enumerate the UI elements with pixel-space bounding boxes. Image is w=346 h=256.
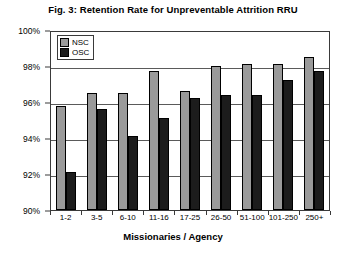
bar-nsc-101-250 xyxy=(273,64,283,210)
x-tick-label: 26-50 xyxy=(206,213,237,229)
bar-group xyxy=(267,32,298,210)
x-tick-mark xyxy=(330,211,331,215)
y-axis: 100%98%96%94%92%90% xyxy=(0,31,46,211)
bar-osc-250+ xyxy=(314,71,324,210)
y-tick-label: 92% xyxy=(23,170,40,180)
bar-osc-11-16 xyxy=(159,118,169,210)
bar-nsc-6-10 xyxy=(118,93,128,210)
figure-retention-rate: Fig. 3: Retention Rate for Unpreventable… xyxy=(0,0,346,256)
x-tick-label: 250+ xyxy=(299,213,330,229)
bar-group xyxy=(236,32,267,210)
x-tick-label: 1-2 xyxy=(50,213,81,229)
bar-nsc-250+ xyxy=(304,57,314,210)
bar-group xyxy=(113,32,144,210)
x-tick-label: 17-25 xyxy=(174,213,205,229)
bar-osc-17-25 xyxy=(190,98,200,210)
bar-osc-26-50 xyxy=(221,95,231,210)
bar-osc-3-5 xyxy=(97,109,107,210)
bar-group xyxy=(298,32,329,210)
y-tick-label: 100% xyxy=(18,26,40,36)
bar-osc-51-100 xyxy=(252,95,262,210)
x-axis-title: Missionaries / Agency xyxy=(0,231,346,242)
bar-nsc-26-50 xyxy=(211,66,221,210)
bar-osc-6-10 xyxy=(128,136,138,210)
legend-swatch-icon xyxy=(60,38,69,47)
legend-item-osc: OSC xyxy=(60,48,89,57)
y-tick-label: 98% xyxy=(23,62,40,72)
chart-title: Fig. 3: Retention Rate for Unpreventable… xyxy=(0,4,346,15)
bar-nsc-3-5 xyxy=(87,93,97,210)
bar-nsc-1-2 xyxy=(56,106,66,210)
bar-group xyxy=(175,32,206,210)
bar-group xyxy=(144,32,175,210)
legend-swatch-icon xyxy=(60,48,69,57)
y-tick-label: 94% xyxy=(23,134,40,144)
x-tick-label: 6-10 xyxy=(112,213,143,229)
x-tick-label: 11-16 xyxy=(143,213,174,229)
bar-osc-101-250 xyxy=(283,80,293,210)
bar-group xyxy=(205,32,236,210)
x-tick-label: 3-5 xyxy=(81,213,112,229)
bar-nsc-11-16 xyxy=(149,71,159,210)
legend: NSCOSC xyxy=(57,35,94,60)
y-tick-label: 90% xyxy=(23,206,40,216)
bar-nsc-51-100 xyxy=(242,64,252,210)
legend-label: NSC xyxy=(72,39,89,47)
legend-item-nsc: NSC xyxy=(60,38,89,47)
x-axis-tick-labels: 1-23-56-1011-1617-2526-5051-100101-25025… xyxy=(50,213,330,229)
y-tick-label: 96% xyxy=(23,98,40,108)
x-tick-label: 51-100 xyxy=(237,213,268,229)
legend-label: OSC xyxy=(72,49,89,57)
bar-osc-1-2 xyxy=(66,172,76,210)
bar-nsc-17-25 xyxy=(180,91,190,210)
x-tick-label: 101-250 xyxy=(268,213,299,229)
